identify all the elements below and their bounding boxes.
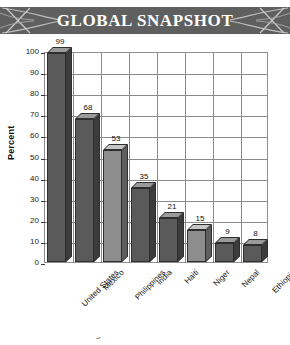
x-axis-label-nepal: Nepal: [240, 268, 261, 289]
bar-side-face: [150, 182, 156, 262]
bar-front-face: [187, 230, 206, 262]
y-axis-label: Percent: [6, 126, 16, 160]
bar-3d-body: [131, 188, 150, 262]
y-axis-tick-label: 40: [30, 174, 39, 183]
page-title: GLOBAL SNAPSHOT: [0, 7, 290, 34]
bar-side-face: [66, 47, 72, 262]
bar-value-label: 21: [167, 202, 176, 211]
bar-3d-body: [103, 150, 122, 262]
bar-value-label: 15: [195, 214, 204, 223]
bar-india[interactable]: 35: [129, 53, 157, 262]
y-axis-tick-label: 100: [26, 47, 39, 56]
bar-side-face: [178, 212, 184, 262]
y-axis-tick-mark: [41, 264, 45, 265]
x-axis-label-ethiopia: Ethiopia: [270, 268, 290, 295]
bar-united-states[interactable]: 99: [45, 53, 73, 262]
bar-3d-body: [75, 119, 94, 262]
bar-front-face: [159, 218, 178, 262]
bar-value-label: 68: [83, 103, 92, 112]
bar-value-label: 35: [139, 172, 148, 181]
x-axis-label-niger: Niger: [211, 268, 231, 288]
y-axis-tick-label: 90: [30, 68, 39, 77]
bar-nepal[interactable]: 9: [213, 53, 241, 262]
y-axis-tick-label: 60: [30, 131, 39, 140]
y-axis-tick-label: 20: [30, 216, 39, 225]
bar-side-face: [94, 113, 100, 262]
y-axis-tick-label: 70: [30, 110, 39, 119]
bar-3d-body: [243, 245, 262, 262]
bar-chart: Percent 01020304050607080901009968533521…: [0, 34, 290, 345]
x-axis-label-haiti: Haiti: [183, 268, 201, 286]
y-axis-tick-label: 10: [30, 237, 39, 246]
bar-philippines[interactable]: 53: [101, 53, 129, 262]
bar-3d-body: [47, 53, 66, 262]
bar-value-label: 9: [225, 227, 229, 236]
y-axis-tick-label: 30: [30, 195, 39, 204]
bar-front-face: [215, 243, 234, 262]
bar-haiti[interactable]: 21: [157, 53, 185, 262]
bar-ethiopia[interactable]: 8: [241, 53, 269, 262]
bar-front-face: [131, 188, 150, 262]
bar-mexico[interactable]: 68: [73, 53, 101, 262]
bar-side-face: [206, 224, 212, 262]
bar-front-face: [243, 245, 262, 262]
bar-value-label: 8: [253, 229, 257, 238]
caption-text: s: [96, 337, 101, 343]
bar-front-face: [103, 150, 122, 262]
plot-area: 010203040506070809010099685335211598: [44, 52, 268, 263]
y-axis-tick-label: 50: [30, 153, 39, 162]
bar-value-label: 99: [55, 37, 64, 46]
header-banner: GLOBAL SNAPSHOT: [0, 7, 290, 34]
bar-3d-body: [187, 230, 206, 262]
bar-3d-body: [159, 218, 178, 262]
bar-3d-body: [215, 243, 234, 262]
bar-niger[interactable]: 15: [185, 53, 213, 262]
y-axis-tick-label: 80: [30, 89, 39, 98]
bar-front-face: [75, 119, 94, 262]
bar-front-face: [47, 53, 66, 262]
bottom-caption: s: [0, 337, 290, 345]
bar-value-label: 53: [111, 134, 120, 143]
bar-side-face: [122, 144, 128, 262]
y-axis-tick-label: 0: [35, 258, 39, 267]
